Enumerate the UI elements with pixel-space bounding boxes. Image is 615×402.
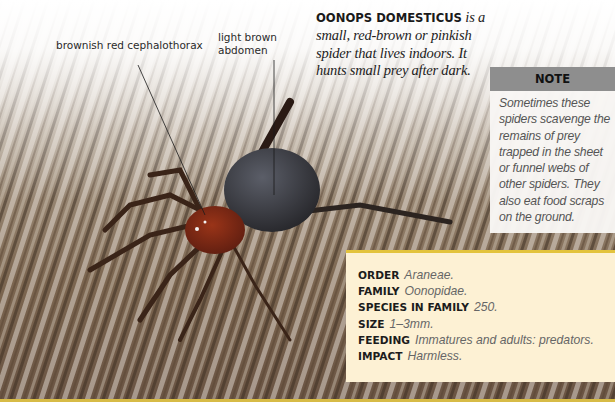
fact-key: SIZE (358, 318, 385, 330)
fact-feeding: FEEDINGImmatures and adults: predators. (358, 332, 615, 348)
fact-family: FAMILYOonopidae. (358, 283, 615, 299)
note-text: Sometimes these spiders scavenge the rem… (490, 91, 615, 225)
fact-box: ORDERAraneae. FAMILYOonopidae. SPECIES I… (346, 250, 615, 382)
fact-value: Araneae. (404, 268, 453, 282)
fact-value: Oonopidae. (404, 284, 467, 298)
fact-key: FEEDING (358, 334, 410, 346)
fact-species-in-family: SPECIES IN FAMILY250. (358, 299, 615, 315)
field-guide-page: brownish red cephalothorax light brown a… (0, 0, 615, 402)
species-intro: OONOPS DOMESTICUS is a small, red-brown … (316, 9, 496, 79)
fact-key: FAMILY (358, 285, 399, 297)
fact-order: ORDERAraneae. (358, 267, 615, 283)
fact-value: Immatures and adults: predators. (415, 333, 594, 347)
fact-impact: IMPACTHarmless. (358, 348, 615, 364)
note-box: NOTE Sometimes these spiders scavenge th… (490, 67, 615, 233)
species-name: OONOPS DOMESTICUS (316, 11, 462, 25)
fact-key: IMPACT (358, 350, 402, 362)
fact-key: ORDER (358, 269, 399, 281)
fact-value: Harmless. (407, 349, 462, 363)
fact-value: 1–3mm. (390, 317, 434, 331)
fact-value: 250. (474, 300, 498, 314)
abdomen-label: light brown abdomen (218, 31, 284, 57)
cephalothorax-label: brownish red cephalothorax (56, 39, 203, 52)
fact-key: SPECIES IN FAMILY (358, 301, 469, 313)
fact-size: SIZE1–3mm. (358, 316, 615, 332)
note-heading: NOTE (490, 67, 615, 91)
